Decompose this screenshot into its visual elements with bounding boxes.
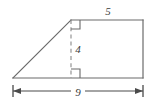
composite-figure-diagram: 5 4 9 — [0, 0, 160, 109]
top-right-angle-marker — [71, 20, 80, 29]
dimension-arrowhead-right — [135, 88, 143, 94]
label-bottom-dimension: 9 — [75, 86, 81, 98]
dimension-arrowhead-left — [13, 88, 21, 94]
bottom-right-angle-marker — [71, 69, 80, 78]
label-top-side: 5 — [105, 5, 111, 17]
triangle-hypotenuse — [13, 20, 71, 78]
figure-container: 5 4 9 — [0, 0, 160, 109]
label-interior-height: 4 — [75, 43, 81, 55]
